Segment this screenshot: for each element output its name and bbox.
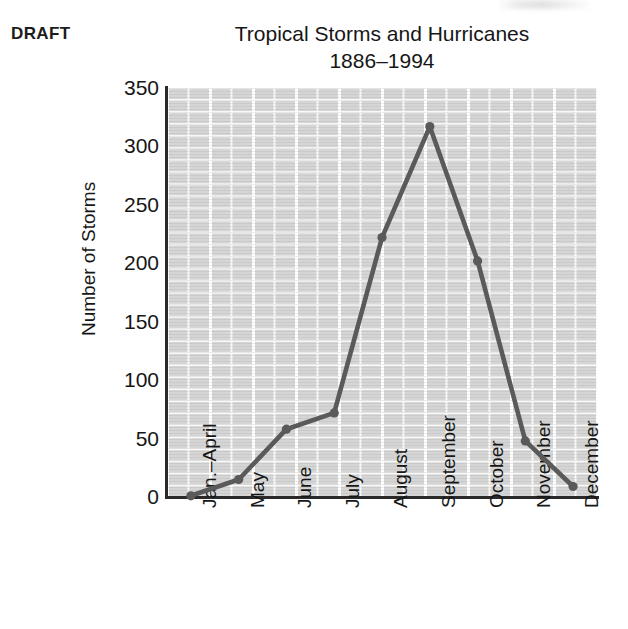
- chart-page: DRAFT Tropical Storms and Hurricanes 188…: [0, 0, 628, 629]
- x-tick-label: June: [294, 467, 316, 508]
- x-tick-label: October: [486, 440, 508, 508]
- x-tick-label: July: [342, 474, 364, 508]
- x-tick-label: May: [247, 472, 269, 508]
- x-tick-label: December: [581, 420, 603, 508]
- x-tick-label: November: [533, 420, 555, 508]
- x-tick-label: August: [390, 449, 412, 508]
- x-axis-tick-labels: Jan.–AprilMayJuneJulyAugustSeptemberOcto…: [0, 0, 628, 629]
- x-tick-label: September: [438, 415, 460, 508]
- x-tick-label: Jan.–April: [199, 424, 221, 509]
